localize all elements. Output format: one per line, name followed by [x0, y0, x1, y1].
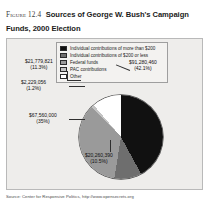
slice-label-other: $21,779,821 (11.3%) — [25, 58, 53, 70]
slice-percent: (1.2%) — [21, 85, 46, 91]
leader-line — [69, 119, 85, 120]
legend-item-individual-under-200: Individual contributions of $200 or less — [60, 52, 163, 59]
slice-percent: (10.5%) — [85, 158, 113, 164]
slice-label-individual-over-200: $91,280,460 (42.1%) — [129, 59, 157, 71]
mid-gray-swatch-icon — [60, 60, 67, 65]
dark-gray-swatch-icon — [60, 53, 67, 58]
slice-percent: (11.3%) — [25, 64, 53, 70]
figure-title-block: Figure 12.4 Sources of George W. Bush's … — [6, 7, 203, 33]
figure-number-label: Figure 12.4 — [6, 11, 41, 19]
slice-label-federal-funds: $67,560,000 (35%) — [29, 112, 57, 124]
legend-item-individual-over-200: Individual contributions of more than $2… — [60, 45, 163, 52]
legend-item-label: PAC contributions — [70, 67, 106, 73]
legend-item-label: Individual contributions of $200 or less — [70, 53, 148, 59]
black-swatch-icon — [60, 46, 67, 51]
light-gray-swatch-icon — [60, 67, 67, 72]
legend-item-label: Federal funds — [70, 60, 98, 66]
slice-label-individual-under-200: $20,260,390 (10.5%) — [85, 152, 113, 164]
source-note: Source: Center for Responsive Politics, … — [6, 194, 203, 199]
leader-line — [110, 140, 111, 152]
legend-item-label: Individual contributions of more than $2… — [70, 46, 155, 52]
chart-panel: Individual contributions of more than $2… — [6, 38, 203, 190]
leader-line — [67, 80, 81, 81]
slice-label-pac: $2,229,056 (1.2%) — [21, 79, 46, 91]
figure-container: Figure 12.4 Sources of George W. Bush's … — [0, 0, 209, 209]
pie-chart — [79, 95, 163, 179]
slice-percent: (42.1%) — [129, 65, 157, 71]
pie-surface — [79, 95, 163, 179]
leader-line — [69, 86, 85, 87]
slice-percent: (35%) — [29, 118, 57, 124]
white-swatch-icon — [60, 74, 67, 79]
